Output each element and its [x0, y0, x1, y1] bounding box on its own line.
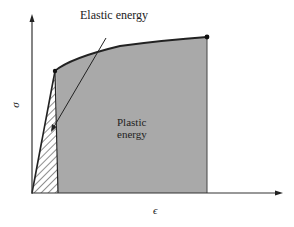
fracture-point-marker	[205, 35, 210, 40]
y-axis-label: σ	[9, 102, 21, 107]
x-axis-label: ϵ	[153, 204, 157, 216]
plastic-energy-label-line1: Plastic	[117, 116, 146, 128]
yield-point-marker	[53, 69, 57, 73]
stress-strain-diagram: Elastic energy Plastic energy σ ϵ	[0, 0, 294, 227]
plastic-energy-label-line2: energy	[117, 128, 147, 140]
x-axis-arrow-icon	[275, 191, 283, 196]
plastic-energy-region	[56, 37, 207, 193]
diagram-canvas	[0, 0, 294, 227]
y-axis-arrow-icon	[30, 14, 35, 22]
elastic-energy-label: Elastic energy	[80, 9, 148, 21]
